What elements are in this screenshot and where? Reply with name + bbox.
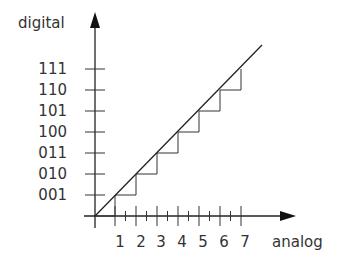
y-tick-label: 011 xyxy=(38,144,67,162)
x-tick-label: 6 xyxy=(219,233,229,251)
y-axis-arrow-icon xyxy=(90,12,100,28)
quantization-staircase xyxy=(115,69,241,216)
x-axis-label: analog xyxy=(272,233,323,251)
x-tick-label: 4 xyxy=(177,233,187,251)
y-tick-label: 010 xyxy=(38,165,67,183)
x-axis-arrow-icon xyxy=(280,211,296,221)
x-tick-label: 7 xyxy=(240,233,250,251)
y-tick-label: 110 xyxy=(38,81,67,99)
x-tick-label: 1 xyxy=(115,233,125,251)
adc-diagram: digital 001 010 011 100 101 110 111 1 2 … xyxy=(0,0,344,268)
y-tick-label: 101 xyxy=(38,102,67,120)
y-tick-label: 001 xyxy=(38,186,67,204)
y-axis-label: digital xyxy=(18,14,65,32)
ideal-transfer-line xyxy=(95,45,262,216)
x-tick-label: 5 xyxy=(198,233,208,251)
y-tick-label: 100 xyxy=(38,123,67,141)
y-tick-label: 111 xyxy=(38,60,67,78)
x-tick-label: 3 xyxy=(156,233,166,251)
x-tick-label: 2 xyxy=(136,233,146,251)
